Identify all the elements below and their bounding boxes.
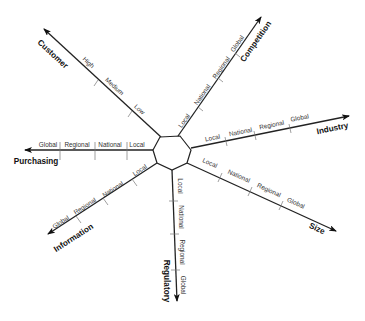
size-arrow-icon — [187, 163, 336, 231]
customer-arrow-icon — [44, 29, 161, 137]
information-level-regional: Regional — [72, 196, 98, 216]
axis-purchasing: Local National Regional Global Purchasin… — [14, 141, 153, 166]
purchasing-level-global: Global — [39, 141, 57, 148]
axis-information: Local National Regional Global Informati… — [48, 163, 157, 254]
information-level-national: National — [101, 180, 124, 199]
axis-regulatory: Local National Regional Global Regulator… — [162, 170, 187, 303]
competition-level-regional: Regional — [211, 55, 232, 80]
axis-customer: Low Medium High Customer — [36, 29, 161, 137]
regulatory-level-global: Global — [180, 276, 187, 294]
competition-tick — [218, 78, 223, 82]
competition-arrow-icon — [178, 17, 261, 136]
size-level-global: Global — [286, 196, 306, 210]
customer-tick — [128, 111, 132, 117]
information-tick — [76, 216, 81, 223]
information-tick — [103, 198, 108, 205]
competition-tick — [198, 107, 203, 111]
purchasing-level-local: Local — [129, 141, 144, 148]
size-axis-label: Size — [308, 221, 327, 236]
regulatory-arrow-icon — [172, 170, 177, 301]
size-level-national: National — [227, 168, 251, 184]
customer-level-high: High — [81, 55, 96, 70]
customer-level-medium: Medium — [104, 76, 125, 97]
industry-level-local: Local — [204, 133, 220, 143]
industry-level-global: Global — [290, 112, 310, 123]
axis-competition: Local National Regional Global Competiti… — [177, 17, 274, 136]
purchasing-level-national: National — [98, 141, 121, 148]
axis-industry: Local National Regional Global Industry — [191, 112, 350, 148]
regulatory-level-national: National — [178, 205, 185, 228]
customer-axis-label: Customer — [36, 38, 71, 71]
regulatory-level-regional: Regional — [178, 239, 186, 264]
customer-tick — [94, 80, 98, 86]
regulatory-axis-label: Regulatory — [162, 260, 171, 303]
purchasing-level-regional: Regional — [64, 141, 89, 149]
center-octagon — [153, 136, 191, 170]
industry-axis-label: Industry — [316, 121, 350, 136]
customer-level-low: Low — [133, 103, 147, 116]
axis-size: Local National Regional Global Size — [187, 156, 336, 236]
regulatory-level-local: Local — [177, 178, 184, 193]
size-level-local: Local — [202, 156, 219, 169]
globalization-radial-diagram: Low Medium High Customer Local National … — [0, 0, 365, 321]
purchasing-axis-label: Purchasing — [14, 157, 59, 166]
information-tick — [132, 179, 137, 186]
